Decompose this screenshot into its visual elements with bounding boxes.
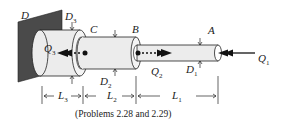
label-c: C xyxy=(90,23,98,35)
label-b: B xyxy=(132,23,139,35)
label-l2: L2 xyxy=(106,89,117,104)
label-d: D xyxy=(20,9,29,21)
figure-caption: (Problems 2.28 and 2.29) xyxy=(75,109,171,120)
label-q1: Q1 xyxy=(258,52,270,67)
label-q2: Q2 xyxy=(151,65,163,80)
flow-q1-arrow xyxy=(218,50,255,57)
label-l1: L1 xyxy=(171,89,182,104)
label-d2: D2 xyxy=(99,75,112,90)
label-d3: D3 xyxy=(64,10,77,25)
pipe-diagram: D D3 C B A Q3 Q2 Q1 D2 D1 L3 L2 L1 (Prob… xyxy=(0,0,285,126)
pipe-section-d1 xyxy=(137,45,218,61)
pipe-section-d2 xyxy=(82,37,136,69)
dimension-lines xyxy=(42,76,218,104)
label-d1: D1 xyxy=(185,63,198,78)
label-l3: L3 xyxy=(57,89,68,104)
label-a: A xyxy=(207,24,215,36)
